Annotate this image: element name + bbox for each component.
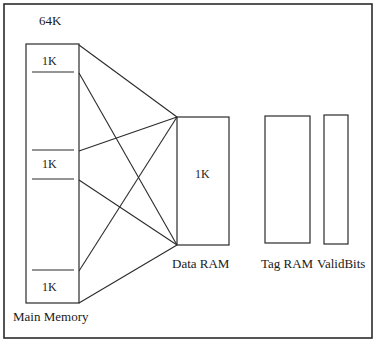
connector-block3-bottom-to-dataram-bot (79, 245, 177, 303)
connector-block1-bottom-to-dataram-bot (79, 73, 177, 245)
diagram-canvas (0, 0, 381, 347)
data-ram-label: Data RAM (172, 257, 229, 270)
main-memory-block-bottom-label: 1K (42, 281, 57, 293)
connector-block1-top-to-dataram-top (79, 45, 177, 117)
data-ram-box (177, 117, 229, 245)
valid-bits-box (324, 115, 348, 244)
connector-block3-top-to-dataram-top (79, 117, 177, 271)
tag-ram-box (265, 116, 310, 243)
tag-ram-label: Tag RAM (261, 257, 313, 270)
main-memory-label: Main Memory (13, 310, 88, 323)
data-ram-size-label: 1K (195, 168, 210, 180)
capacity-label: 64K (39, 14, 61, 27)
cache-mapping-diagram: 64K 1K 1K 1K Main Memory 1K Data RAM Tag… (0, 0, 381, 347)
connector-block2-bottom-to-dataram-bot (79, 180, 177, 245)
valid-bits-label: ValidBits (317, 257, 365, 270)
connector-block2-top-to-dataram-top (79, 117, 177, 151)
main-memory-box (26, 44, 79, 303)
main-memory-block-top-label: 1K (42, 55, 57, 67)
main-memory-block-middle-label: 1K (42, 158, 57, 170)
